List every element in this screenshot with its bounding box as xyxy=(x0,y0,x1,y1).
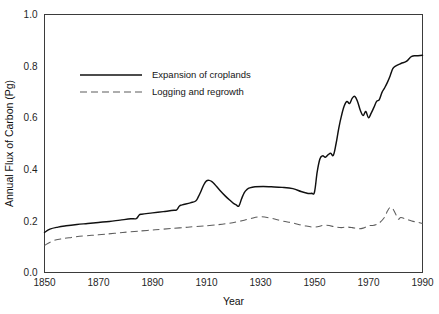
y-axis-tick-labels: 0.00.20.40.60.81.0 xyxy=(24,9,38,278)
x-axis-tick-labels: 18501870189019101930195019701990 xyxy=(33,277,434,288)
y-tick-label: 0.4 xyxy=(24,164,38,175)
x-tick-label: 1950 xyxy=(303,277,326,288)
x-tick-label: 1930 xyxy=(249,277,272,288)
carbon-flux-line-chart: 0.00.20.40.60.81.0 185018701890191019301… xyxy=(0,0,439,314)
x-tick-label: 1910 xyxy=(195,277,218,288)
x-axis-title: Year xyxy=(223,295,245,307)
x-tick-label: 1890 xyxy=(141,277,164,288)
x-tick-label: 1970 xyxy=(357,277,380,288)
series-line-logging-regrowth xyxy=(45,207,423,245)
plot-frame xyxy=(45,15,423,273)
legend-label: Expansion of croplands xyxy=(152,69,251,80)
legend-label: Logging and regrowth xyxy=(152,86,244,97)
chart-legend: Expansion of croplandsLogging and regrow… xyxy=(80,69,251,97)
y-tick-label: 0.2 xyxy=(24,216,38,227)
y-axis-title: Annual Flux of Carbon (Pg) xyxy=(3,80,15,207)
y-tick-label: 0.8 xyxy=(24,61,38,72)
x-tick-label: 1850 xyxy=(33,277,56,288)
series-line-expansion-croplands xyxy=(45,55,423,232)
y-tick-label: 1.0 xyxy=(24,9,38,20)
x-tick-label: 1870 xyxy=(87,277,110,288)
y-tick-label: 0.6 xyxy=(24,112,38,123)
axis-frame-path xyxy=(45,15,423,273)
data-series-layer xyxy=(45,55,423,245)
x-tick-label: 1990 xyxy=(411,277,434,288)
carbon-flux-chart-figure: 0.00.20.40.60.81.0 185018701890191019301… xyxy=(0,0,439,314)
